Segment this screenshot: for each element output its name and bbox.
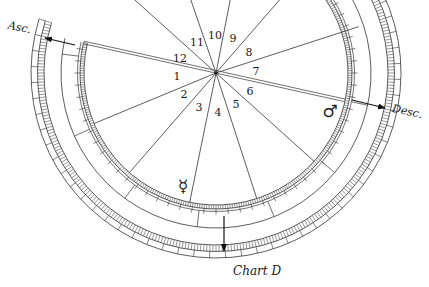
mars-icon: ♂ — [322, 103, 337, 120]
chart-caption: Chart D — [233, 265, 281, 277]
house-number: 12 — [173, 53, 187, 64]
house-number: 1 — [174, 71, 181, 82]
house-number: 10 — [208, 30, 222, 41]
house-number: 7 — [253, 66, 260, 77]
house-number: 6 — [247, 86, 254, 97]
house-number: 11 — [190, 37, 204, 48]
house-number: 5 — [233, 99, 240, 110]
chart-wheel — [0, 0, 429, 287]
house-number: 2 — [181, 89, 188, 100]
house-number: 4 — [215, 107, 222, 118]
house-number: 8 — [246, 47, 253, 58]
house-number: 3 — [196, 102, 203, 113]
house-number: 9 — [230, 33, 237, 44]
mercury-icon: ☿ — [178, 178, 188, 195]
